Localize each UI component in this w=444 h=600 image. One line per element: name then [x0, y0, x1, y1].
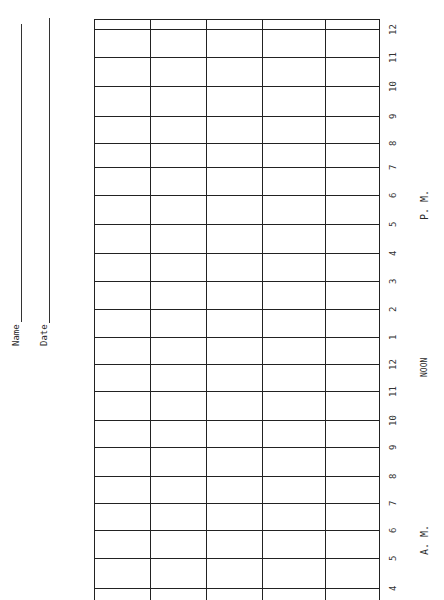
- hour-row-line: [94, 167, 380, 168]
- hour-label: 9: [389, 113, 398, 118]
- hour-label: 3: [389, 278, 398, 283]
- hour-label: 11: [389, 52, 398, 63]
- hour-label: 8: [389, 473, 398, 478]
- name-label: Name: [12, 324, 21, 346]
- hour-label: 5: [389, 221, 398, 226]
- pm-label: P. M.: [420, 190, 429, 220]
- hour-row-line: [94, 224, 380, 225]
- hour-label: 7: [389, 164, 398, 169]
- hour-label: 10: [389, 81, 398, 92]
- hour-row-line: [94, 558, 380, 559]
- hour-label: 4: [389, 250, 398, 255]
- hour-row-line: [94, 86, 380, 87]
- name-line[interactable]: [21, 24, 22, 322]
- hour-label: 9: [389, 444, 398, 449]
- hour-row-line: [94, 309, 380, 310]
- hour-row-line: [94, 29, 380, 30]
- hour-row-line: [94, 503, 380, 504]
- hour-label: 5: [389, 555, 398, 560]
- hour-row-line: [94, 57, 380, 58]
- hour-row-line: [94, 420, 380, 421]
- hour-label: 4: [389, 585, 398, 590]
- hour-label: 10: [389, 415, 398, 426]
- hour-row-line: [94, 447, 380, 448]
- hour-row-line: [94, 253, 380, 254]
- hour-row-line: [94, 337, 380, 338]
- hour-row-line: [94, 281, 380, 282]
- hour-label: 6: [389, 192, 398, 197]
- hour-label: 6: [389, 527, 398, 532]
- am-label: A. M.: [420, 525, 429, 555]
- hour-label: 12: [389, 24, 398, 35]
- hour-row-line: [94, 364, 380, 365]
- date-line[interactable]: [49, 18, 50, 323]
- hour-label: 8: [389, 140, 398, 145]
- hour-label: 1: [389, 334, 398, 339]
- hour-row-line: [94, 143, 380, 144]
- date-label: Date: [40, 324, 49, 346]
- noon-label: NOON: [420, 358, 429, 377]
- hour-row-line: [94, 116, 380, 117]
- hour-label: 12: [389, 359, 398, 370]
- hour-row-line: [94, 195, 380, 196]
- hour-label: 7: [389, 500, 398, 505]
- hour-row-line: [94, 588, 380, 589]
- hour-label: 2: [389, 306, 398, 311]
- hour-row-line: [94, 391, 380, 392]
- hour-row-line: [94, 476, 380, 477]
- hour-row-line: [94, 530, 380, 531]
- hour-label: 11: [389, 386, 398, 397]
